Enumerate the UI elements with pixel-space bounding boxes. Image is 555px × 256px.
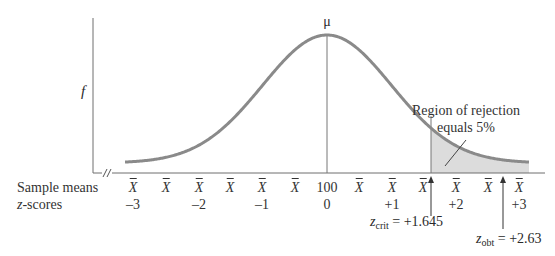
sample-mean-xbar: X (291, 180, 300, 196)
region-label-line2: equals 5% (406, 119, 526, 136)
sample-mean-xbar: X (355, 180, 364, 196)
mean-label: μ (323, 14, 331, 30)
z-crit-label: zcrit = +1.645 (370, 214, 443, 230)
sample-mean-xbar: X (129, 180, 138, 196)
rejection-region-label: Region of rejection equals 5% (406, 102, 526, 136)
sample-mean-xbar: X (258, 180, 267, 196)
sample-mean-xbar: X (484, 180, 493, 196)
z-scores-row-suffix: -scores (22, 197, 62, 212)
z-score-tick: +2 (449, 197, 464, 213)
y-axis-label: f (81, 83, 85, 100)
sample-means-row-label: Sample means (17, 180, 98, 196)
z-score-tick: –1 (255, 197, 269, 213)
z-crit-value: = +1.645 (392, 214, 443, 229)
z-obt-value: = +2.63 (498, 231, 542, 246)
z-obt-label: zobt = +2.63 (476, 231, 542, 247)
sample-mean-xbar: X (419, 180, 428, 196)
z-obt-arrow-icon (500, 176, 506, 229)
sample-mean-xbar: X (388, 180, 397, 196)
z-obt-subscript: obt (481, 237, 494, 248)
z-crit-arrow-icon (428, 176, 434, 216)
sample-mean-xbar: X (515, 180, 524, 196)
z-score-tick: –2 (192, 197, 206, 213)
axis-break-icon (103, 169, 111, 177)
region-label-line1: Region of rejection (406, 102, 526, 119)
z-score-tick: 0 (324, 197, 331, 213)
z-crit-subscript: crit (375, 220, 388, 231)
z-scores-row-label: z-scores (17, 197, 62, 213)
z-score-tick: –3 (126, 197, 140, 213)
sample-mean-value: 100 (317, 180, 338, 196)
sample-mean-xbar: X (195, 180, 204, 196)
z-score-tick: +1 (385, 197, 400, 213)
z-score-tick: +3 (512, 197, 527, 213)
sample-mean-xbar: X (162, 180, 171, 196)
sample-mean-xbar: X (452, 180, 461, 196)
sample-mean-xbar: X (226, 180, 235, 196)
